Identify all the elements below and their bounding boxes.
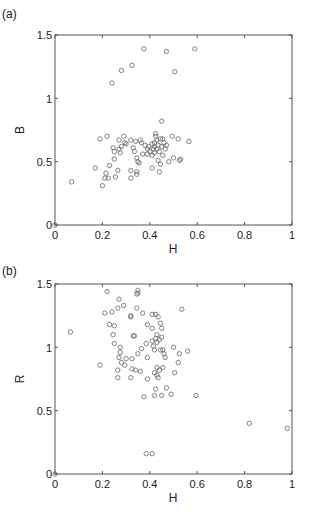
y-axis-label-a: B bbox=[13, 126, 27, 134]
data-point bbox=[129, 168, 133, 172]
data-point bbox=[130, 63, 134, 67]
data-point bbox=[164, 386, 168, 390]
x-tick-label: 0.6 bbox=[190, 229, 205, 241]
data-point bbox=[117, 355, 121, 359]
data-point bbox=[129, 176, 133, 180]
data-point bbox=[176, 137, 180, 141]
data-point bbox=[142, 47, 146, 51]
scatter-panel-a: (a) 0 0.2 0.4 0.6 0.8 1 0 0.5 1 1.5 H B bbox=[2, 7, 295, 256]
x-axis-label-b: H bbox=[169, 491, 178, 505]
data-point bbox=[138, 138, 142, 142]
data-point bbox=[104, 171, 108, 175]
data-point bbox=[135, 306, 139, 310]
data-point bbox=[180, 307, 184, 311]
data-point bbox=[141, 311, 145, 315]
data-point bbox=[100, 184, 104, 188]
plot-frame-b bbox=[55, 284, 292, 474]
y-tick-labels-b: 0 0.5 1 1.5 bbox=[37, 278, 52, 480]
data-point bbox=[160, 119, 164, 123]
data-point bbox=[154, 387, 158, 391]
data-point bbox=[139, 346, 143, 350]
x-tick-label: 0.2 bbox=[95, 478, 110, 490]
data-point bbox=[157, 170, 161, 174]
data-point bbox=[150, 326, 154, 330]
data-point bbox=[152, 393, 156, 397]
data-point bbox=[141, 152, 145, 156]
data-point bbox=[123, 363, 127, 367]
data-point bbox=[105, 134, 109, 138]
x-tick-label: 1 bbox=[289, 478, 295, 490]
data-point bbox=[103, 311, 107, 315]
data-point bbox=[247, 421, 251, 425]
data-point bbox=[130, 357, 134, 361]
data-point bbox=[107, 322, 111, 326]
data-point bbox=[158, 321, 162, 325]
data-point bbox=[110, 81, 114, 85]
data-point bbox=[98, 137, 102, 141]
y-tick-label: 1.5 bbox=[37, 29, 52, 41]
data-point bbox=[105, 289, 109, 293]
data-point bbox=[169, 392, 173, 396]
ticks-a bbox=[55, 35, 292, 225]
y-tick-labels-a: 0 0.5 1 1.5 bbox=[37, 29, 52, 231]
data-point bbox=[150, 452, 154, 456]
data-point bbox=[111, 333, 115, 337]
x-tick-label: 0 bbox=[52, 229, 58, 241]
data-point bbox=[116, 306, 120, 310]
data-point bbox=[145, 152, 149, 156]
data-point bbox=[173, 70, 177, 74]
scatter-panel-b: (b) 0 0.2 0.4 0.6 0.8 1 0 0.5 1 1.5 H R bbox=[2, 264, 295, 505]
data-point bbox=[124, 357, 128, 361]
data-points-b bbox=[53, 288, 290, 476]
x-tick-label: 0.6 bbox=[190, 478, 205, 490]
data-point bbox=[117, 138, 121, 142]
data-point bbox=[145, 322, 149, 326]
data-point bbox=[171, 345, 175, 349]
data-point bbox=[171, 156, 175, 160]
x-tick-label: 0.8 bbox=[237, 229, 252, 241]
data-point bbox=[137, 161, 141, 165]
data-point bbox=[112, 341, 116, 345]
x-tick-label: 0.4 bbox=[142, 478, 157, 490]
data-point bbox=[150, 166, 154, 170]
data-point bbox=[136, 352, 140, 356]
data-point bbox=[107, 163, 111, 167]
data-point bbox=[161, 365, 165, 369]
data-point bbox=[161, 153, 165, 157]
x-tick-label: 0 bbox=[52, 478, 58, 490]
ticks-b bbox=[55, 284, 292, 474]
x-tick-label: 0.4 bbox=[142, 229, 157, 241]
data-point bbox=[177, 352, 181, 356]
x-tick-labels-b: 0 0.2 0.4 0.6 0.8 1 bbox=[52, 478, 295, 490]
y-tick-label: 0.5 bbox=[37, 405, 52, 417]
data-point bbox=[98, 363, 102, 367]
data-point bbox=[113, 175, 117, 179]
data-point bbox=[164, 49, 168, 53]
data-point bbox=[285, 426, 289, 430]
x-tick-labels-a: 0 0.2 0.4 0.6 0.8 1 bbox=[52, 229, 295, 241]
x-tick-label: 0.2 bbox=[95, 229, 110, 241]
data-point bbox=[187, 139, 191, 143]
data-point bbox=[117, 297, 121, 301]
data-point bbox=[133, 139, 137, 143]
data-point bbox=[118, 345, 122, 349]
y-tick-label: 1.5 bbox=[37, 278, 52, 290]
data-point bbox=[145, 355, 149, 359]
x-tick-label: 1 bbox=[289, 229, 295, 241]
data-point bbox=[160, 326, 164, 330]
data-point bbox=[68, 330, 72, 334]
x-axis-label-a: H bbox=[169, 242, 178, 256]
figure: (a) 0 0.2 0.4 0.6 0.8 1 0 0.5 1 1.5 H B … bbox=[0, 0, 309, 517]
data-point bbox=[178, 157, 182, 161]
data-point bbox=[138, 369, 142, 373]
y-tick-label: 1 bbox=[46, 342, 52, 354]
data-point bbox=[177, 158, 181, 162]
data-point bbox=[173, 371, 177, 375]
data-point bbox=[176, 360, 180, 364]
data-point bbox=[144, 452, 148, 456]
data-point bbox=[129, 138, 133, 142]
data-point bbox=[116, 368, 120, 372]
data-point bbox=[93, 166, 97, 170]
data-point bbox=[118, 350, 122, 354]
panel-label-b: (b) bbox=[2, 264, 17, 278]
